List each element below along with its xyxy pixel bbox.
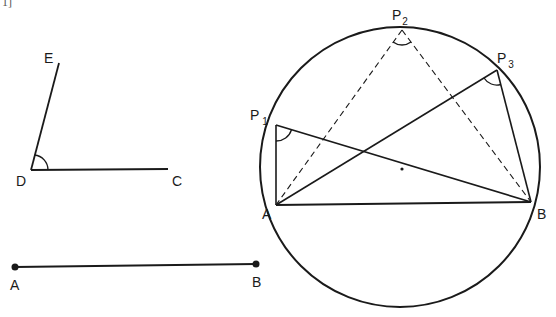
chord-ab (276, 202, 531, 205)
line-p3-b (497, 70, 531, 202)
circle (260, 27, 540, 307)
line-p2-a (276, 30, 402, 205)
line-p1-b (276, 125, 531, 202)
ray-de (31, 63, 59, 170)
label-a: A (10, 277, 20, 293)
circle-figure: P1 P2 P3 A B (250, 7, 546, 307)
label-b: B (252, 274, 261, 290)
angle-arc-p3 (484, 78, 501, 85)
angle-arc-p2 (393, 42, 411, 45)
label-c: C (172, 173, 182, 189)
angle-arc-d (35, 155, 49, 170)
geometry-diagram: 1] E D C A B P1 P2 P3 (0, 0, 556, 317)
label-d: D (16, 173, 26, 189)
segment-ab-figure: A B (10, 261, 261, 294)
line-p3-a (276, 70, 497, 205)
ray-dc (31, 169, 168, 170)
label-p2: P2 (392, 7, 408, 27)
segment-ab (15, 264, 256, 267)
angle-edc-figure: E D C (16, 50, 182, 189)
label-p3: P3 (497, 50, 514, 70)
label-p1: P1 (250, 107, 268, 127)
point-a (12, 264, 19, 271)
label-b-circle: B (537, 206, 546, 222)
center-point (400, 167, 403, 170)
caption-fragment: 1] (2, 0, 12, 9)
point-b (253, 261, 260, 268)
label-e: E (44, 50, 53, 66)
angle-arc-p1 (276, 130, 292, 141)
label-a-circle: A (262, 206, 272, 222)
